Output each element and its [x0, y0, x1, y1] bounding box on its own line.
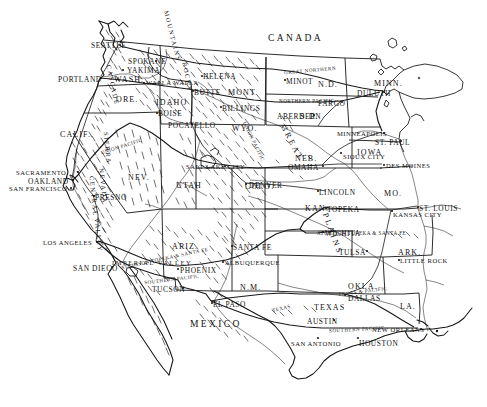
- city-dot: [77, 171, 79, 173]
- city-dot: [96, 241, 98, 243]
- city-dot: [325, 207, 327, 209]
- city-dot: [222, 261, 224, 263]
- city-dot: [391, 210, 393, 212]
- city-dot: [191, 123, 193, 125]
- city-dot: [111, 266, 113, 268]
- city-dot: [245, 183, 247, 185]
- city-dot: [182, 287, 184, 289]
- city-dot: [333, 319, 335, 321]
- map-linework: .coast{fill:none;stroke:#141414;stroke-w…: [0, 0, 487, 407]
- great-lakes: [370, 38, 463, 152]
- city-dot: [322, 231, 324, 233]
- city-dot: [383, 91, 385, 93]
- city-dot: [224, 165, 226, 167]
- gulf-coastline: [214, 291, 472, 379]
- city-dot: [417, 206, 419, 208]
- city-dot: [357, 337, 359, 339]
- city-dot: [317, 190, 319, 192]
- city-dot: [400, 140, 402, 142]
- city-dot: [341, 101, 343, 103]
- city-dot: [220, 106, 222, 108]
- city-dot: [322, 165, 324, 167]
- city-dot: [119, 44, 121, 46]
- city-dot: [155, 60, 157, 62]
- city-dot: [317, 337, 319, 339]
- city-dot: [156, 112, 158, 114]
- city-dot: [143, 82, 145, 84]
- city-dot: [70, 187, 72, 189]
- city-dot: [72, 179, 74, 181]
- railroad-lines: [72, 44, 418, 328]
- city-dot: [383, 164, 385, 166]
- mountain-hachures: [70, 30, 418, 355]
- city-dot: [122, 69, 124, 71]
- city-dot: [366, 250, 368, 252]
- city-dot: [201, 75, 203, 77]
- city-dot: [211, 302, 213, 304]
- canada-border: [104, 40, 404, 70]
- city-dot: [383, 132, 385, 134]
- city-dot: [192, 90, 194, 92]
- city-dot: [398, 259, 400, 261]
- city-dot: [420, 328, 422, 330]
- city-dot: [100, 77, 102, 79]
- rivers: [73, 49, 461, 364]
- city-dot: [284, 79, 286, 81]
- state-boundaries: [73, 46, 433, 324]
- map-canvas: .coast{fill:none;stroke:#141414;stroke-w…: [0, 0, 487, 407]
- city-dot: [344, 294, 346, 296]
- city-dot: [93, 195, 95, 197]
- city-dot: [177, 268, 179, 270]
- city-dot: [340, 152, 342, 154]
- city-dot: [231, 245, 233, 247]
- city-dot: [313, 114, 315, 116]
